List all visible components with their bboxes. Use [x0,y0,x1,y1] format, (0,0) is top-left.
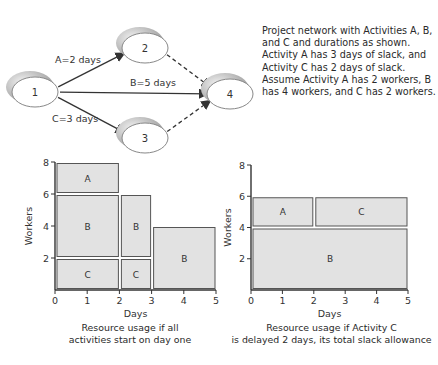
resource-chart-right: BAC0123452468DaysWorkers [222,160,411,320]
y-tick-label: 4 [239,222,245,233]
y-tick-label: 8 [43,157,49,168]
y-axis-title: Workers [23,207,34,245]
block-label: B [85,222,91,232]
caption-left-line-2: activities start on day one [40,334,220,346]
x-tick-label: 4 [181,295,187,306]
resource-chart-left: CBACBB0123452468DaysWorkers [23,157,219,320]
x-tick-label: 4 [374,295,380,306]
x-tick-label: 5 [405,295,411,306]
block-label: C [358,207,364,217]
node-1: 1 [6,71,58,107]
x-tick-label: 0 [248,295,254,306]
x-tick-label: 1 [279,295,285,306]
x-axis-title: Days [124,308,148,319]
edge-label-b: B=5 days [130,77,176,88]
x-axis-title: Days [318,308,342,319]
caption-right: Resource usage if Activity C is delayed … [225,322,438,346]
y-tick-label: 6 [43,189,49,200]
block-label: A [85,174,92,184]
y-tick-label: 2 [239,253,245,264]
x-tick-label: 3 [149,295,155,306]
block-label: A [280,207,287,217]
block-label: B [327,254,333,264]
edge-1-4 [60,92,208,94]
y-tick-label: 8 [239,160,245,171]
block-label: B [133,222,139,232]
x-tick-label: 1 [84,295,90,306]
node-label: 1 [32,87,38,98]
node-4: 4 [201,73,253,109]
y-tick-label: 2 [43,253,49,264]
node-label: 3 [142,133,148,144]
y-tick-label: 6 [239,191,245,202]
x-tick-label: 0 [52,295,58,306]
node-label: 2 [142,43,148,54]
edge-3-4 [167,100,210,131]
caption-right-line-1: Resource usage if Activity C [225,322,438,334]
x-tick-label: 2 [311,295,317,306]
x-tick-label: 3 [342,295,348,306]
block-label: C [85,270,91,280]
x-tick-label: 2 [116,295,122,306]
node-2: 2 [116,27,168,63]
block-label: C [133,270,139,280]
x-tick-label: 5 [213,295,219,306]
y-tick-label: 4 [43,221,49,232]
caption-left: Resource usage if all activities start o… [40,322,220,346]
node-label: 4 [227,89,233,100]
edge-label-a: A=2 days [55,54,101,65]
y-axis-title: Workers [222,208,233,246]
caption-right-line-2: is delayed 2 days, its total slack allow… [225,334,438,346]
block-label: B [181,254,187,264]
edge-label-c: C=3 days [52,113,98,124]
caption-left-line-1: Resource usage if all [40,322,220,334]
problem-description: Project network with Activities A, B, an… [262,25,438,98]
node-3: 3 [116,117,168,153]
